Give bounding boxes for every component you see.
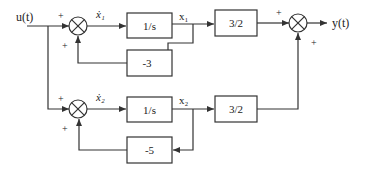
gain2-to-sum3-wire <box>257 33 298 109</box>
sum2-feedback-sign: + <box>62 123 68 134</box>
sum1-feedback-sign: + <box>62 40 68 51</box>
feedback-gain-2-label: -5 <box>145 144 155 156</box>
feedback-gain-2-block: -5 <box>127 137 172 163</box>
summing-junction-1 <box>69 17 87 35</box>
x2-label: x₂ <box>179 94 189 106</box>
block-diagram: u(t) + + ẋ₁ 1/s x₁ -3 3/2 + + ẋ₂ 1/ <box>0 0 367 174</box>
output-gain-1-label: 3/2 <box>229 17 243 29</box>
output-gain-2-block: 3/2 <box>215 96 257 122</box>
output-gain-1-block: 3/2 <box>215 10 257 36</box>
x2-dot-label: ẋ₂ <box>95 91 105 103</box>
feedback-gain-1-label: -3 <box>142 57 152 69</box>
feedback-gain-1-block: -3 <box>127 50 172 76</box>
sum3-bottom-sign: + <box>311 37 317 48</box>
feedback1-to-sum1-wire <box>78 36 127 63</box>
x1-label: x₁ <box>179 10 189 22</box>
input-label: u(t) <box>16 10 33 24</box>
summing-junction-output <box>289 14 307 32</box>
x2-feedback-wire <box>173 109 193 150</box>
integrator-1-block: 1/s <box>127 13 172 38</box>
x1-dot-label: ẋ₁ <box>95 8 105 20</box>
sum3-top-sign: + <box>276 7 282 18</box>
feedback2-to-sum2-wire <box>79 119 127 150</box>
sum2-input-sign: + <box>58 93 64 104</box>
summing-junction-2 <box>69 100 87 118</box>
output-gain-2-label: 3/2 <box>229 103 243 115</box>
sum1-input-sign: + <box>58 10 64 21</box>
output-label: y(t) <box>332 16 349 30</box>
integrator-2-block: 1/s <box>127 97 172 122</box>
integrator-2-label: 1/s <box>143 104 156 116</box>
integrator-1-label: 1/s <box>143 20 156 32</box>
